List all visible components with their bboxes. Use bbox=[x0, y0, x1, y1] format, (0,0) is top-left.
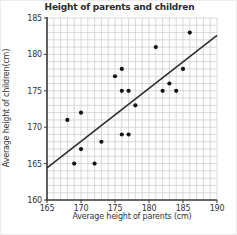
data-point bbox=[120, 89, 124, 93]
data-point bbox=[154, 45, 158, 49]
data-point bbox=[133, 103, 137, 107]
y-tick-label: 180 bbox=[27, 50, 42, 59]
data-point bbox=[113, 74, 117, 78]
trend-line bbox=[47, 35, 217, 167]
scatter-chart-figure: Height of parents and children 165170175… bbox=[0, 0, 237, 235]
scatter-plot-canvas: 165170175180185190160165170175180185 bbox=[1, 1, 237, 235]
data-point bbox=[79, 111, 83, 115]
y-tick-label: 185 bbox=[27, 14, 42, 23]
data-point bbox=[120, 132, 124, 136]
data-point bbox=[174, 89, 178, 93]
data-point bbox=[99, 140, 103, 144]
data-point bbox=[181, 67, 185, 71]
data-point bbox=[120, 67, 124, 71]
x-axis-title: Average height of parents (cm) bbox=[47, 212, 217, 221]
y-tick-label: 170 bbox=[27, 123, 42, 132]
data-point bbox=[72, 162, 76, 166]
data-point bbox=[161, 89, 165, 93]
data-point bbox=[188, 30, 192, 34]
data-point bbox=[127, 89, 131, 93]
y-axis-title: Average height of children(cm) bbox=[2, 13, 16, 203]
data-point bbox=[79, 147, 83, 151]
y-tick-label: 160 bbox=[27, 196, 42, 205]
y-tick-label: 175 bbox=[27, 87, 42, 96]
data-point bbox=[127, 132, 131, 136]
y-tick-label: 165 bbox=[27, 160, 42, 169]
data-point bbox=[167, 81, 171, 85]
data-point bbox=[65, 118, 69, 122]
data-point bbox=[93, 162, 97, 166]
